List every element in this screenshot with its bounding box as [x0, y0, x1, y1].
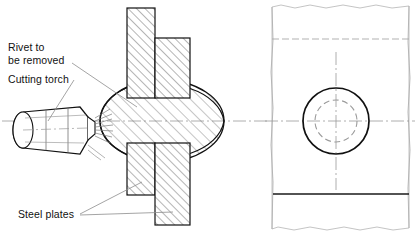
label-rivet-line1: Rivet to — [8, 41, 44, 53]
label-rivet-line2: be removed — [8, 54, 65, 66]
engineering-figure: Rivet to be removed Cutting torch Steel … — [0, 0, 415, 234]
label-cutting-torch: Cutting torch — [8, 73, 69, 85]
upper-left-plate — [127, 8, 155, 98]
drawing-canvas: Rivet to be removed Cutting torch Steel … — [0, 0, 415, 234]
label-steel-plates: Steel plates — [18, 208, 74, 220]
cutting-torch — [13, 107, 95, 154]
leader-line-plates-upper — [80, 182, 142, 214]
upper-right-plate — [155, 38, 190, 98]
torch-contact-lines — [88, 145, 105, 160]
front-view — [265, 5, 415, 230]
